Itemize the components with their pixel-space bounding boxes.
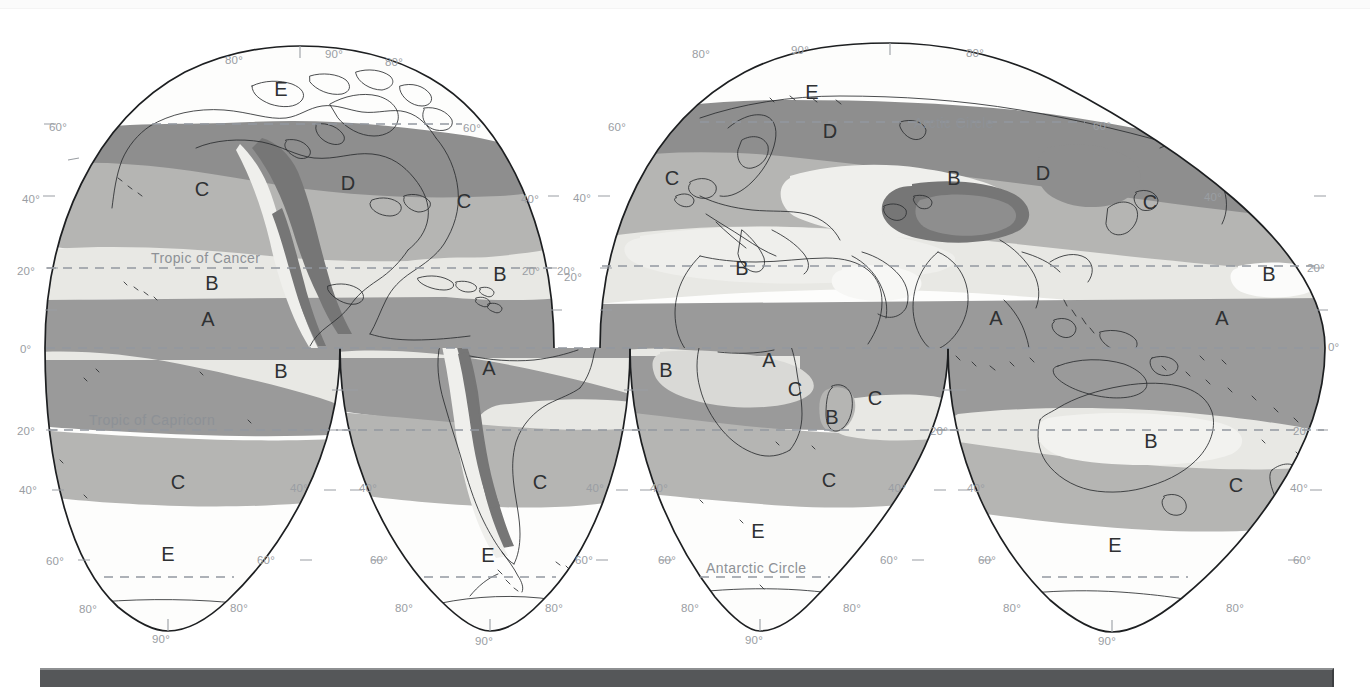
lon-label-pole: 90° — [1098, 635, 1116, 647]
lon-label-pole: 90° — [475, 635, 493, 647]
zone-letter-b: B — [274, 360, 287, 382]
lat-label: 60° — [608, 121, 626, 133]
zone-letter-c: C — [822, 469, 836, 491]
zone-letter-b: B — [205, 272, 218, 294]
lat-label: 80° — [692, 48, 710, 60]
lat-label: 80° — [225, 54, 243, 66]
lobe-south-america — [336, 344, 636, 644]
lat-label: 80° — [843, 602, 861, 614]
lon-label-pole: 90° — [745, 634, 763, 646]
zone-letter-c: C — [665, 167, 679, 189]
lat-label: 40° — [650, 482, 668, 494]
lat-label: 40° — [19, 484, 37, 496]
lat-label: 80° — [79, 603, 97, 615]
zone-letter-b: B — [1144, 430, 1157, 452]
zone-letter-c: C — [868, 387, 882, 409]
zone-letter-b: B — [1262, 263, 1275, 285]
page-root: 80° 90° 80° 60° 60° 40° 40° 20° 20° 0° 8… — [0, 0, 1370, 687]
lat-label: 60° — [880, 554, 898, 566]
lat-label: 40° — [290, 482, 308, 494]
zone-b-caribbean — [396, 258, 560, 301]
lat-label: 20° — [1307, 262, 1325, 274]
lat-label: 0° — [20, 343, 31, 355]
zone-letter-b: B — [659, 359, 672, 381]
lat-label: 40° — [359, 482, 377, 494]
lat-label: 60° — [463, 122, 481, 134]
lat-label: 80° — [230, 602, 248, 614]
lat-label: 60° — [46, 555, 64, 567]
lat-label: 20° — [1293, 425, 1311, 437]
lat-label: 40° — [521, 193, 539, 205]
world-climate-map: 80° 90° 80° 60° 60° 40° 40° 20° 20° 0° 8… — [0, 0, 1370, 660]
lat-label: 20° — [564, 271, 582, 283]
arctic-circle-label: Arctic Circle — [914, 115, 994, 131]
zone-letter-a: A — [989, 307, 1003, 329]
lat-label: 60° — [658, 554, 676, 566]
zone-letter-c: C — [1229, 474, 1243, 496]
lat-label: 80° — [1226, 602, 1244, 614]
tropic-of-capricorn-label: Tropic of Capricorn — [89, 412, 215, 428]
lobe-south-australia — [944, 344, 1332, 644]
zone-letter-e: E — [161, 543, 174, 565]
zone-letter-e: E — [481, 544, 494, 566]
lat-label: 60° — [257, 554, 275, 566]
lat-label: 20° — [17, 265, 35, 277]
lat-label: 0° — [1328, 341, 1339, 353]
lat-label: 60° — [49, 121, 67, 133]
zone-letter-d: D — [1036, 162, 1050, 184]
lat-label: 60° — [370, 554, 388, 566]
bottom-rule-bar — [40, 668, 1334, 687]
zone-letter-d: D — [341, 172, 355, 194]
lon-label-pole: 90° — [791, 44, 809, 56]
lat-label: 60° — [1293, 554, 1311, 566]
lat-label: 80° — [385, 56, 403, 68]
zone-letter-b: B — [947, 167, 960, 189]
zone-letter-a: A — [1215, 307, 1229, 329]
lon-label-pole: 90° — [325, 48, 343, 60]
lat-label: 20° — [930, 425, 948, 437]
zone-letter-e: E — [274, 78, 287, 100]
lat-label: 80° — [1003, 602, 1021, 614]
zone-letter-a: A — [482, 357, 496, 379]
lat-label: 20° — [522, 265, 540, 277]
zone-letter-e: E — [805, 81, 818, 103]
lat-label: 60° — [1093, 120, 1111, 132]
lat-label: 80° — [395, 602, 413, 614]
zone-letter-c: C — [788, 378, 802, 400]
zone-letter-c: C — [533, 471, 547, 493]
lat-label: 20° — [17, 425, 35, 437]
lat-label: 40° — [1204, 191, 1222, 203]
zone-letter-a: A — [762, 349, 776, 371]
zone-letter-c: C — [457, 190, 471, 212]
zone-letter-c: C — [1143, 191, 1157, 213]
tropic-of-cancer-label: Tropic of Cancer — [151, 250, 260, 266]
zone-letter-e: E — [1108, 534, 1121, 556]
zone-letter-c: C — [171, 471, 185, 493]
lat-label: 40° — [22, 193, 40, 205]
lat-label: 40° — [888, 482, 906, 494]
zone-letter-c: C — [195, 178, 209, 200]
lat-label: 40° — [586, 482, 604, 494]
lat-label: 80° — [681, 602, 699, 614]
zone-letter-b: B — [735, 257, 748, 279]
lat-label: 40° — [573, 192, 591, 204]
zone-letter-e: E — [751, 520, 764, 542]
lat-label: 60° — [978, 554, 996, 566]
lat-label: 80° — [966, 47, 984, 59]
lat-label: 80° — [545, 602, 563, 614]
zone-letter-b: B — [493, 263, 506, 285]
lat-label: 40° — [967, 482, 985, 494]
antarctic-circle-label: Antarctic Circle — [706, 560, 807, 576]
map-canvas: 80° 90° 80° 60° 60° 40° 40° 20° 20° 0° 8… — [0, 0, 1370, 660]
lon-label-pole: 90° — [152, 633, 170, 645]
lobe-north-americas — [40, 40, 565, 356]
zone-letter-b: B — [825, 406, 838, 428]
lat-label: 60° — [575, 554, 593, 566]
zone-letter-d: D — [823, 120, 837, 142]
zone-letter-a: A — [201, 308, 215, 330]
lat-label: 40° — [1290, 482, 1308, 494]
